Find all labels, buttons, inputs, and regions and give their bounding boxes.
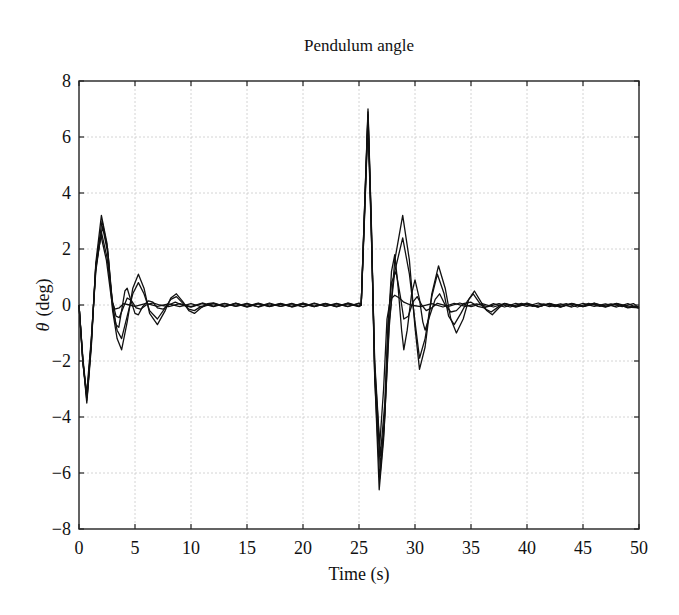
x-tick-label: 0 bbox=[75, 538, 84, 558]
y-tick-label: 2 bbox=[62, 239, 71, 259]
x-axis-label: Time (s) bbox=[329, 564, 390, 585]
x-tick-label: 15 bbox=[238, 538, 256, 558]
y-tick-label: 6 bbox=[62, 127, 71, 147]
y-axis-symbol: θ bbox=[33, 322, 53, 331]
x-tick-label: 30 bbox=[406, 538, 424, 558]
y-tick-label: −6 bbox=[52, 463, 71, 483]
series-line bbox=[79, 123, 639, 445]
x-tick-label: 40 bbox=[518, 538, 536, 558]
x-tick-label: 5 bbox=[131, 538, 140, 558]
chart-title: Pendulum angle bbox=[304, 36, 414, 55]
x-tick-label: 35 bbox=[462, 538, 480, 558]
x-tick-label: 10 bbox=[182, 538, 200, 558]
y-tick-label: −2 bbox=[52, 351, 71, 371]
y-tick-label: 4 bbox=[62, 183, 71, 203]
y-tick-label: 8 bbox=[62, 71, 71, 91]
x-tick-label: 45 bbox=[574, 538, 592, 558]
y-tick-label: 0 bbox=[62, 295, 71, 315]
y-axis-label: θ(deg) bbox=[33, 279, 54, 332]
pendulum-angle-chart: Pendulum angle 05101520253035404550 −8−6… bbox=[0, 0, 679, 615]
x-tick-label: 50 bbox=[630, 538, 648, 558]
x-tick-labels: 05101520253035404550 bbox=[75, 538, 649, 558]
y-tick-label: −8 bbox=[52, 519, 71, 539]
y-tick-labels: −8−6−4−202468 bbox=[52, 71, 71, 539]
x-tick-label: 20 bbox=[294, 538, 312, 558]
y-tick-label: −4 bbox=[52, 407, 71, 427]
y-axis-unit: (deg) bbox=[33, 279, 54, 317]
x-tick-label: 25 bbox=[350, 538, 368, 558]
svg-text:θ(deg): θ(deg) bbox=[33, 279, 54, 332]
